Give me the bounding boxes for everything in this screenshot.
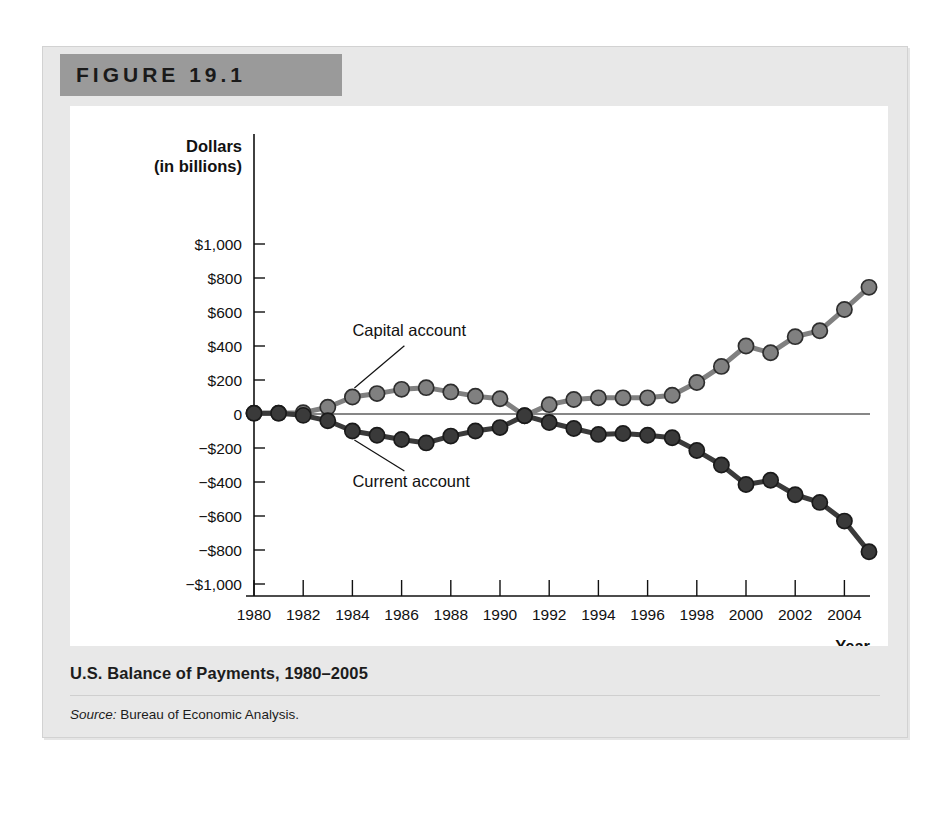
data-point bbox=[714, 359, 729, 374]
data-point bbox=[665, 388, 680, 403]
x-axis-tick-label: 1988 bbox=[434, 606, 468, 623]
data-point bbox=[468, 423, 483, 438]
data-point bbox=[419, 380, 434, 395]
data-point bbox=[812, 495, 827, 510]
data-point bbox=[714, 457, 729, 472]
annotation-current-account: Current account bbox=[352, 472, 470, 490]
data-point bbox=[763, 473, 778, 488]
data-point bbox=[837, 302, 852, 317]
data-point bbox=[345, 389, 360, 404]
data-point bbox=[591, 390, 606, 405]
x-axis-tick-label: 1986 bbox=[384, 606, 418, 623]
x-axis-title: Year bbox=[835, 637, 870, 646]
data-point bbox=[320, 413, 335, 428]
y-axis-tick-label: −$1,000 bbox=[186, 576, 243, 593]
figure-screenshot: FIGURE 19.1 Dollars(in billions)$1,000$8… bbox=[0, 0, 950, 815]
y-axis-label-line1: Dollars bbox=[186, 137, 242, 155]
series-capital-account bbox=[246, 280, 876, 424]
data-point bbox=[492, 391, 507, 406]
x-axis-tick-label: 1998 bbox=[680, 606, 714, 623]
x-axis-tick-label: 1996 bbox=[630, 606, 664, 623]
x-axis-tick-label: 1990 bbox=[483, 606, 518, 623]
data-point bbox=[394, 432, 409, 447]
figure-header-bar: FIGURE 19.1 bbox=[60, 54, 342, 96]
data-point bbox=[517, 408, 532, 423]
y-axis-tick-label: −$800 bbox=[198, 542, 242, 559]
x-axis-tick-label: 1984 bbox=[335, 606, 370, 623]
data-point bbox=[861, 544, 876, 559]
x-axis-tick-label: 2004 bbox=[827, 606, 862, 623]
x-axis-tick-label: 1992 bbox=[532, 606, 566, 623]
data-point bbox=[369, 428, 384, 443]
data-point bbox=[788, 329, 803, 344]
y-axis-tick-label: −$400 bbox=[198, 474, 242, 491]
data-point bbox=[763, 345, 778, 360]
data-point bbox=[788, 487, 803, 502]
x-axis-tick-label: 2000 bbox=[729, 606, 764, 623]
annotation-capital-account: Capital account bbox=[352, 321, 466, 339]
data-point bbox=[369, 386, 384, 401]
data-point bbox=[566, 421, 581, 436]
figure-caption: U.S. Balance of Payments, 1980–2005 Sour… bbox=[70, 664, 880, 722]
caption-divider bbox=[70, 695, 880, 696]
y-axis-label-line2: (in billions) bbox=[154, 157, 242, 175]
x-axis-tick-label: 1980 bbox=[237, 606, 272, 623]
data-point bbox=[738, 338, 753, 353]
figure-number-label: FIGURE 19.1 bbox=[60, 63, 246, 87]
x-axis-tick-label: 2002 bbox=[778, 606, 812, 623]
y-axis-tick-label: −$600 bbox=[198, 508, 242, 525]
annotation-leader-line-capital bbox=[354, 346, 404, 388]
data-point bbox=[665, 430, 680, 445]
x-axis-tick-label: 1982 bbox=[286, 606, 320, 623]
series-current-account bbox=[246, 406, 876, 560]
y-axis-tick-label: $800 bbox=[208, 270, 243, 287]
plot-panel: Dollars(in billions)$1,000$800$600$400$2… bbox=[70, 106, 888, 646]
y-axis-tick-label: $200 bbox=[208, 372, 243, 389]
balance-of-payments-chart: Dollars(in billions)$1,000$800$600$400$2… bbox=[70, 106, 888, 646]
caption-title: U.S. Balance of Payments, 1980–2005 bbox=[70, 664, 880, 683]
data-point bbox=[542, 415, 557, 430]
source-text: Bureau of Economic Analysis. bbox=[120, 707, 299, 722]
caption-source: Source: Bureau of Economic Analysis. bbox=[70, 707, 880, 722]
data-point bbox=[738, 477, 753, 492]
data-point bbox=[615, 390, 630, 405]
data-point bbox=[492, 420, 507, 435]
data-point bbox=[689, 375, 704, 390]
data-point bbox=[345, 423, 360, 438]
y-axis-tick-label: $1,000 bbox=[195, 236, 243, 253]
data-point bbox=[468, 389, 483, 404]
data-point bbox=[640, 428, 655, 443]
data-point bbox=[542, 397, 557, 412]
y-axis-tick-label: −$200 bbox=[198, 440, 242, 457]
data-point bbox=[689, 443, 704, 458]
x-axis-tick-label: 1994 bbox=[581, 606, 616, 623]
y-axis-tick-label: $600 bbox=[208, 304, 243, 321]
data-point bbox=[812, 323, 827, 338]
data-point bbox=[640, 390, 655, 405]
y-axis-tick-label: $400 bbox=[208, 338, 243, 355]
data-point bbox=[615, 426, 630, 441]
data-point bbox=[591, 427, 606, 442]
figure-card: FIGURE 19.1 Dollars(in billions)$1,000$8… bbox=[42, 46, 908, 738]
data-point bbox=[443, 429, 458, 444]
data-point bbox=[837, 514, 852, 529]
y-axis-tick-label: 0 bbox=[233, 406, 242, 423]
data-point bbox=[419, 435, 434, 450]
data-point bbox=[566, 392, 581, 407]
data-point bbox=[271, 406, 286, 421]
data-point bbox=[443, 384, 458, 399]
source-prefix: Source: bbox=[70, 707, 117, 722]
data-point bbox=[246, 406, 261, 421]
data-point bbox=[394, 382, 409, 397]
data-point bbox=[296, 408, 311, 423]
data-point bbox=[861, 280, 876, 295]
